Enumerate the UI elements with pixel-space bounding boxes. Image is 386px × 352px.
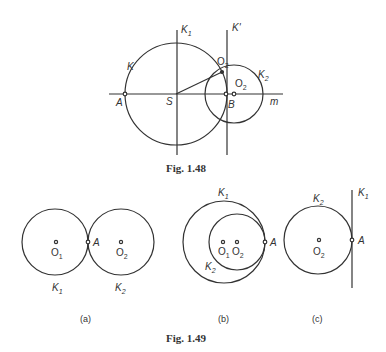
label-B: B xyxy=(228,99,235,110)
label-O2-center: O2 xyxy=(235,78,247,91)
label-a-O1: O1 xyxy=(51,247,63,260)
label-a-O2: O2 xyxy=(116,247,128,260)
caption-fig-1-49: Fig. 1.49 xyxy=(166,332,207,344)
caption-fig-1-48: Fig. 1.48 xyxy=(166,162,207,174)
point-b-O2 xyxy=(235,240,238,243)
label-c-A: A xyxy=(357,235,365,246)
label-K-prime: K' xyxy=(232,22,242,33)
circle-b-K2 xyxy=(209,214,265,270)
panel-tag-a: (a) xyxy=(80,314,91,324)
label-m: m xyxy=(270,96,278,107)
label-S: S xyxy=(166,96,173,107)
point-A xyxy=(123,92,127,96)
label-K1: K1 xyxy=(181,24,192,37)
panel-tag-b: (b) xyxy=(218,314,229,324)
label-b-A: A xyxy=(269,237,277,248)
point-b-A xyxy=(263,240,267,244)
panel-tag-c: (c) xyxy=(312,314,323,324)
label-a-K2: K2 xyxy=(115,282,126,295)
label-c-K1: K1 xyxy=(358,187,369,200)
point-b-O1 xyxy=(221,240,224,243)
figure-canvas: K K1 K' O2 O2 K2 A S B m Fig. 1.48 O1 O2… xyxy=(0,0,386,352)
point-c-A xyxy=(350,238,354,242)
label-b-K1: K1 xyxy=(218,187,229,200)
point-a-O1 xyxy=(54,240,57,243)
point-O2-upper xyxy=(221,71,224,74)
label-c-K2: K2 xyxy=(313,193,324,206)
label-a-K1: K1 xyxy=(52,282,63,295)
label-A: A xyxy=(115,97,123,108)
point-a-O2 xyxy=(119,240,122,243)
point-B xyxy=(224,92,228,96)
point-a-A xyxy=(86,240,90,244)
label-b-O2: O2 xyxy=(232,246,244,259)
point-c-O2 xyxy=(317,238,320,241)
label-K: K xyxy=(127,61,135,72)
label-a-A: A xyxy=(92,237,100,248)
label-c-O2: O2 xyxy=(313,246,325,259)
point-O2-center xyxy=(232,92,236,96)
label-b-K2: K2 xyxy=(205,261,216,274)
label-b-O1: O1 xyxy=(218,246,230,259)
segment-S-O2 xyxy=(176,72,222,94)
